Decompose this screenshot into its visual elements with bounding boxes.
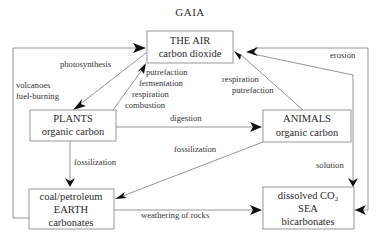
label-fuel-burning: fuel-burning (16, 91, 60, 101)
label-plants-fossilization: fossilization (74, 157, 117, 167)
node-sea-line3: bicarbonates (281, 216, 334, 227)
node-plants-subtitle: organic carbon (42, 126, 105, 137)
node-earth: coal/petroleum EARTH carbonates (29, 189, 114, 229)
node-earth-line1: coal/petroleum (40, 191, 103, 202)
node-plants: PLANTS organic carbon (30, 110, 116, 141)
node-air-subtitle: carbon dioxide (159, 48, 222, 59)
node-earth-title: EARTH (54, 204, 89, 215)
node-air-title: THE AIR (170, 35, 211, 46)
node-earth-line3: carbonates (49, 217, 94, 228)
label-solution: solution (316, 160, 344, 170)
node-sea-subscript: 2 (335, 195, 339, 203)
label-respiration-animals: respiration (222, 74, 259, 84)
node-plants-title: PLANTS (53, 113, 93, 124)
arrowhead-erosion-icon (246, 47, 258, 56)
gaia-carbon-cycle-diagram: GAIA THE AIR carbon dioxide (0, 0, 382, 243)
node-sea-co-text: dissolved CO (278, 190, 335, 201)
label-erosion: erosion (330, 50, 356, 60)
diagram-title: GAIA (175, 6, 205, 18)
label-animals-fossilization: fossilization (174, 144, 217, 154)
arrowhead-animals-fossilization-icon (115, 192, 127, 199)
label-fermentation: fermentation (139, 78, 184, 88)
label-digestion: digestion (170, 113, 202, 123)
label-volcanoes: volcanoes (16, 80, 51, 90)
node-air: THE AIR carbon dioxide (147, 31, 233, 63)
label-photosynthesis: photosynthesis (60, 59, 112, 69)
node-sea-title: SEA (298, 203, 318, 214)
node-animals: ANIMALS organic carbon (263, 110, 351, 142)
label-respiration-plants: respiration (132, 89, 169, 99)
arrowhead-animals-to-air-icon (234, 51, 245, 60)
label-weathering: weathering of rocks (141, 210, 210, 220)
node-animals-subtitle: organic carbon (276, 127, 339, 138)
label-combustion: combustion (125, 100, 166, 110)
label-putrefaction: putrefaction (146, 67, 188, 77)
node-sea: dissolved CO2 SEA bicarbonates (263, 187, 354, 229)
label-putrefaction-animals: putrefaction (232, 85, 274, 95)
node-animals-title: ANIMALS (283, 113, 331, 124)
arrowhead-plants-to-air-icon (137, 63, 146, 74)
